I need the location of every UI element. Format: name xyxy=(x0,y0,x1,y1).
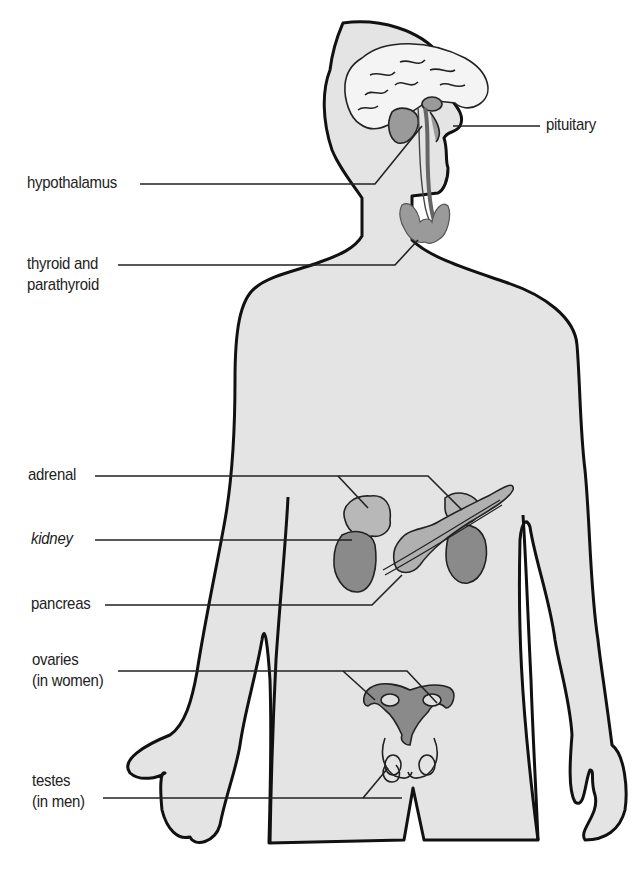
label-ovaries: ovaries (in women) xyxy=(32,649,103,691)
label-thyroid: thyroid and parathyroid xyxy=(27,253,99,295)
label-hypothalamus: hypothalamus xyxy=(27,172,117,193)
label-testes: testes (in men) xyxy=(32,770,85,812)
label-kidney: kidney xyxy=(31,528,73,549)
label-adrenal: adrenal xyxy=(28,464,76,485)
label-pituitary: pituitary xyxy=(546,114,596,135)
body-silhouette xyxy=(128,22,626,843)
label-pancreas: pancreas xyxy=(31,593,90,614)
